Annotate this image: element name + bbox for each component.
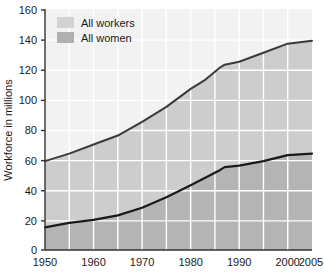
y-tick-label-100: 100	[19, 94, 37, 106]
x-tick-label-1960: 1960	[81, 256, 105, 268]
y-tick-label-40: 40	[25, 185, 37, 197]
y-tick-label-60: 60	[25, 155, 37, 167]
y-tick-label-80: 80	[25, 124, 37, 136]
legend-label-all-women: All women	[81, 32, 132, 44]
legend-swatch-all-workers	[57, 17, 74, 28]
x-tick-label-1970: 1970	[130, 256, 154, 268]
y-tick-label-160: 160	[19, 4, 37, 16]
y-tick-label-120: 120	[19, 64, 37, 76]
x-tick-label-2000: 2000	[275, 256, 299, 268]
x-tick-label-1990: 1990	[227, 256, 251, 268]
x-tick-label-2005: 2005	[299, 256, 323, 268]
legend-label-all-workers: All workers	[81, 17, 135, 29]
y-tick-label-140: 140	[19, 34, 37, 46]
y-tick-label-0: 0	[31, 244, 37, 256]
y-tick-label-20: 20	[25, 215, 37, 227]
legend-swatch-all-women	[57, 32, 74, 43]
x-tick-label-1950: 1950	[33, 256, 57, 268]
chart-page: 0 20 40 60 80 100 120 140 160 1950 1960 …	[0, 0, 324, 275]
area-chart: 0 20 40 60 80 100 120 140 160 1950 1960 …	[0, 0, 324, 275]
y-axis-title: Workforce in millions	[2, 79, 14, 181]
x-tick-label-1980: 1980	[178, 256, 202, 268]
